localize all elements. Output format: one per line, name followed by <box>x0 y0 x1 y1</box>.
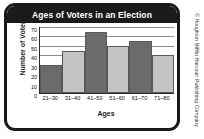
x-axis-tick-labels: 21–3031–4041–5051–6061–7071–80 <box>39 95 173 101</box>
x-tick-label: 21–30 <box>39 95 61 101</box>
bar-slot <box>40 27 62 93</box>
x-tick-label: 41–50 <box>84 95 106 101</box>
plot-region: Number of Voters 010203040506070 21–3031… <box>7 23 177 128</box>
bar <box>129 41 151 93</box>
copyright-notice: © Houghton Mifflin Harcourt Publishing C… <box>191 0 203 139</box>
bar <box>40 65 62 93</box>
y-tick-label: 40 <box>31 57 37 63</box>
y-tick-label: 10 <box>31 85 37 91</box>
y-tick-label: 20 <box>31 75 37 81</box>
y-tick-label: 50 <box>31 47 37 53</box>
bar-slot <box>129 27 151 93</box>
x-tick-label: 71–80 <box>151 95 173 101</box>
bar <box>152 55 174 93</box>
bar <box>85 32 107 93</box>
bar-slot <box>85 27 107 93</box>
y-tick-label: 30 <box>31 66 37 72</box>
chart-card: Ages of Voters in an Election Number of … <box>4 3 180 131</box>
chart-title-bar: Ages of Voters in an Election <box>7 6 177 23</box>
x-tick-label: 51–60 <box>106 95 128 101</box>
plot-area <box>39 27 174 94</box>
y-axis-tick-labels: 010203040506070 <box>23 27 37 93</box>
x-axis-title: Ages <box>39 110 173 117</box>
bar <box>107 46 129 93</box>
x-tick-label: 61–70 <box>128 95 150 101</box>
figure-container: Ages of Voters in an Election Number of … <box>0 0 204 139</box>
chart-title: Ages of Voters in an Election <box>32 10 152 20</box>
bar-slot <box>107 27 129 93</box>
copyright-text: © Houghton Mifflin Harcourt Publishing C… <box>194 13 200 127</box>
bar-slot <box>62 27 84 93</box>
y-tick-label: 70 <box>31 28 37 34</box>
y-tick-label: 0 <box>34 94 37 100</box>
bar-slot <box>152 27 174 93</box>
x-tick-label: 31–40 <box>61 95 83 101</box>
bars-layer <box>40 27 174 93</box>
bar <box>62 51 84 93</box>
y-tick-label: 60 <box>31 38 37 44</box>
